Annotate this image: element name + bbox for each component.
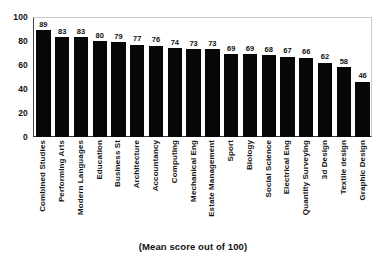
bars-container: 898383807977767473736969686766625846	[34, 17, 372, 137]
bar-group: 74	[168, 17, 182, 137]
y-axis: 020406080100	[0, 0, 31, 265]
x-tick-group: 3d Design	[318, 140, 332, 235]
x-tick-label: Business St	[114, 140, 122, 187]
bar[interactable]	[93, 41, 107, 137]
x-tick-group: Mechanical Eng	[186, 140, 200, 235]
bar-group: 67	[280, 17, 294, 137]
bar-group: 77	[130, 17, 144, 137]
x-tick-label: Quantity Surveying	[302, 140, 310, 215]
bar-group: 76	[149, 17, 163, 137]
x-tick-group: Business St	[111, 140, 125, 235]
x-tick-label: Graphic Design	[359, 140, 367, 201]
x-tick-label: Modern Languages	[77, 140, 85, 215]
bar[interactable]	[74, 37, 88, 137]
bar[interactable]	[130, 45, 144, 137]
x-tick-label: Combined Studies	[39, 140, 47, 212]
x-tick-label: Biology	[246, 140, 254, 170]
x-tick-group: Estate Management	[205, 140, 219, 235]
bar-value-label: 58	[331, 58, 357, 66]
bar[interactable]	[243, 54, 257, 137]
x-tick-label: Sport	[227, 140, 235, 161]
bar[interactable]	[205, 49, 219, 137]
x-tick-label: Mechanical Eng	[190, 140, 198, 202]
bar[interactable]	[224, 54, 238, 137]
x-axis-category-labels: Combined StudiesPerforming ArtsModern La…	[34, 140, 372, 235]
bar-chart: 020406080100 898383807977767473736969686…	[0, 0, 386, 265]
x-tick-label: Accountancy	[152, 140, 160, 191]
y-tick-label: 40	[18, 85, 28, 94]
bar-group: 69	[243, 17, 257, 137]
x-tick-label: Estate Management	[208, 140, 216, 217]
bar[interactable]	[149, 46, 163, 137]
x-tick-group: Sport	[224, 140, 238, 235]
bar[interactable]	[55, 37, 69, 137]
bar-group: 73	[205, 17, 219, 137]
x-tick-label: Performing Arts	[58, 140, 66, 202]
y-tick-label: 100	[13, 13, 28, 22]
x-tick-label: Electrical Eng	[283, 140, 291, 194]
bar[interactable]	[186, 49, 200, 137]
x-tick-group: Computing	[168, 140, 182, 235]
x-tick-group: Education	[93, 140, 107, 235]
x-tick-group: Architecture	[130, 140, 144, 235]
bar-value-label: 46	[349, 72, 375, 80]
x-tick-group: Biology	[243, 140, 257, 235]
x-tick-group: Electrical Eng	[280, 140, 294, 235]
x-tick-label: Education	[96, 140, 104, 180]
x-tick-group: Accountancy	[149, 140, 163, 235]
x-tick-group: Social Science	[262, 140, 276, 235]
bar-group: 66	[299, 17, 313, 137]
chart-caption: (Mean score out of 100)	[0, 241, 386, 252]
x-tick-label: Textile design	[340, 140, 348, 194]
bar[interactable]	[168, 48, 182, 137]
x-tick-label: Computing	[171, 140, 179, 183]
y-tick-label: 60	[18, 61, 28, 70]
bar[interactable]	[280, 57, 294, 137]
y-tick-label: 80	[18, 37, 28, 46]
x-tick-label: 3d Design	[321, 140, 329, 179]
x-tick-group: Performing Arts	[55, 140, 69, 235]
bar-group: 68	[262, 17, 276, 137]
bar[interactable]	[355, 82, 369, 137]
bar-group: 62	[318, 17, 332, 137]
bar-group: 46	[355, 17, 369, 137]
y-tick-label: 0	[23, 133, 28, 142]
bar-group: 69	[224, 17, 238, 137]
x-tick-label: Social Science	[265, 140, 273, 197]
x-tick-group: Graphic Design	[355, 140, 369, 235]
bar[interactable]	[36, 30, 50, 137]
x-tick-group: Combined Studies	[36, 140, 50, 235]
x-tick-label: Architecture	[133, 140, 141, 188]
x-tick-group: Quantity Surveying	[299, 140, 313, 235]
bar[interactable]	[318, 63, 332, 137]
bar[interactable]	[262, 55, 276, 137]
bar-group: 73	[186, 17, 200, 137]
bar[interactable]	[111, 42, 125, 137]
x-tick-group: Textile design	[337, 140, 351, 235]
x-tick-group: Modern Languages	[74, 140, 88, 235]
bar[interactable]	[299, 58, 313, 137]
y-tick-label: 20	[18, 109, 28, 118]
